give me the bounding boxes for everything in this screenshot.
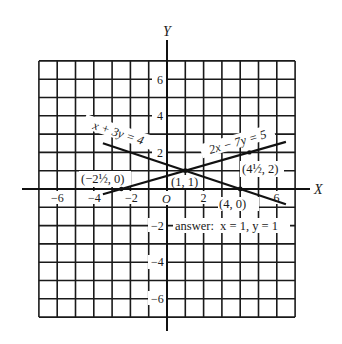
linear-system-graph: X Y O 6 4 2 −2 −4 −6 −6 −4 −2 2 6 x + 3y… — [0, 0, 342, 344]
point-marker-4half-2 — [247, 150, 251, 154]
x-tick-label: −2 — [125, 191, 138, 205]
x-tick-label: −6 — [51, 191, 64, 205]
y-tick-label: −4 — [151, 255, 164, 269]
y-tick-label: −2 — [151, 219, 164, 233]
y-tick-label: −6 — [151, 292, 164, 306]
point-label-4-0: (4, 0) — [219, 197, 246, 211]
y-tick-label: 4 — [157, 109, 163, 123]
y-tick-label: 2 — [157, 146, 163, 160]
x-tick-label: 2 — [201, 191, 207, 205]
point-marker-neg2half-0 — [119, 187, 123, 191]
x-tick-label: −4 — [88, 191, 101, 205]
origin-label: O — [162, 192, 171, 206]
answer-label: answer: x = 1, y = 1 — [175, 219, 278, 233]
equation-label-x-plus-3y: x + 3y = 4 — [90, 118, 146, 148]
x-axis-label: X — [313, 182, 323, 197]
y-axis-label: Y — [163, 24, 173, 39]
point-label-4half-2: (4½, 2) — [242, 162, 278, 176]
point-marker-1-1 — [183, 168, 188, 173]
point-label-1-1: (1, 1) — [171, 175, 198, 189]
point-marker-4-0 — [238, 187, 243, 192]
point-label-neg2half-0: (−2½, 0) — [81, 172, 125, 186]
x-tick-label: 6 — [274, 191, 280, 205]
y-tick-label: 6 — [157, 73, 163, 87]
